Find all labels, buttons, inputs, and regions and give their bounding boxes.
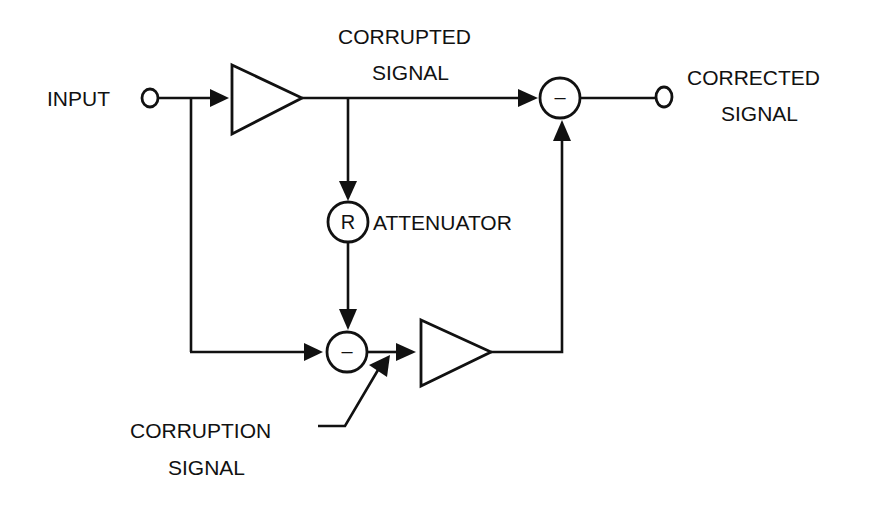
input-label: INPUT (47, 87, 110, 110)
output-terminal-icon (656, 87, 672, 107)
amplifier-2-icon (421, 320, 491, 386)
arrow-icon (518, 89, 538, 107)
arrow-icon (553, 120, 571, 141)
corrupted-label-line1: CORRUPTED (338, 25, 471, 48)
corruption-leader-wire (318, 370, 378, 426)
corruption-label-line1: CORRUPTION (130, 419, 271, 442)
attenuator-label: ATTENUATOR (373, 211, 512, 234)
corruption-label-line2: SIGNAL (168, 456, 245, 479)
arrow-icon (339, 181, 357, 201)
corrected-label-line2: SIGNAL (721, 102, 798, 125)
amplifier-1-icon (232, 65, 302, 134)
corrupted-label-line2: SIGNAL (372, 61, 449, 84)
correction-feedback-wire (491, 138, 562, 352)
arrow-icon (396, 343, 416, 361)
corrected-label-line1: CORRECTED (687, 66, 820, 89)
block-diagram: INPUT CORRUPTED SIGNAL R ATTENUATOR – CO… (0, 0, 895, 507)
arrow-icon (304, 343, 323, 361)
subtractor-bottom-symbol: – (341, 340, 353, 362)
subtractor-top-symbol: – (554, 86, 566, 108)
arrow-icon (210, 89, 229, 107)
input-terminal-icon (142, 89, 158, 107)
arrow-icon (339, 309, 357, 330)
attenuator-symbol: R (341, 211, 355, 233)
arrow-icon (369, 355, 390, 377)
